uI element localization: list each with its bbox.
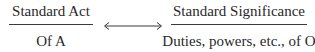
double-arrow-icon <box>103 21 163 31</box>
right-fraction: Standard Significance Duties, powers, et… <box>170 0 308 50</box>
left-denominator: Of A <box>36 32 66 50</box>
left-fraction-bar <box>9 24 93 25</box>
left-numerator: Standard Act <box>12 0 90 22</box>
right-denominator: Duties, powers, etc., of O <box>162 32 315 50</box>
right-fraction-bar <box>171 24 307 25</box>
left-fraction: Standard Act Of A <box>9 0 93 50</box>
right-numerator: Standard Significance <box>173 0 305 22</box>
